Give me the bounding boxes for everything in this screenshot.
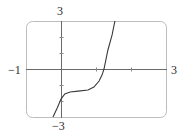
y-max-label: 3: [57, 5, 63, 17]
x-max-label: 3: [171, 64, 177, 76]
x-min-label: −1: [8, 64, 21, 76]
y-min-label: −3: [52, 120, 65, 132]
graph-canvas: [0, 0, 183, 133]
